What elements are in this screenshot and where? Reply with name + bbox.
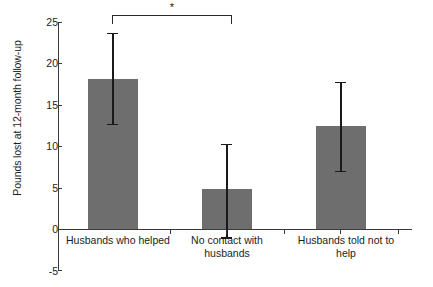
y-axis-tick-labels: 25 20 15 10 5 0 -5 <box>0 0 58 287</box>
error-bar-stem <box>340 82 341 171</box>
y-tick-label: 5 <box>16 183 58 193</box>
x-category-label-line: help <box>281 247 411 260</box>
x-category-label-line: Husbands told not to <box>281 234 411 247</box>
x-category-label-line: No contact with <box>167 234 287 247</box>
x-category-label: Husbands who helped <box>58 234 178 247</box>
x-category-label: Husbands told not to help <box>281 234 411 259</box>
error-bar-stem <box>226 144 227 238</box>
error-bar-stem <box>112 33 113 124</box>
y-tick-label: 20 <box>16 58 58 68</box>
x-category-label: No contact with husbands <box>167 234 287 259</box>
bar-chart: Pounds lost at 12-month follow-up 25 20 … <box>0 0 433 287</box>
y-tick-label: 0 <box>16 224 58 234</box>
y-tick-label: 15 <box>16 100 58 110</box>
plot-area <box>62 22 412 270</box>
x-axis-line <box>58 229 412 230</box>
error-bar-cap-upper <box>107 33 118 34</box>
bracket-right-tick <box>231 15 232 24</box>
significance-bracket <box>112 15 232 25</box>
y-tick-label: 25 <box>16 17 58 27</box>
y-tick-label: -5 <box>16 266 58 276</box>
bracket-top-line <box>112 15 232 16</box>
error-bar-cap-lower <box>107 124 118 125</box>
x-category-label-line: husbands <box>167 247 287 260</box>
y-tick-mark <box>58 270 62 271</box>
error-bar-cap-upper <box>335 82 346 83</box>
error-bar-cap-lower <box>335 171 346 172</box>
x-category-label-line: Husbands who helped <box>58 234 178 247</box>
significance-asterisk: * <box>112 2 232 13</box>
y-tick-label: 10 <box>16 141 58 151</box>
error-bar-cap-upper <box>221 144 232 145</box>
